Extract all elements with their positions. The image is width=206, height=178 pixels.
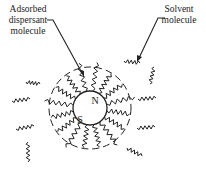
adsorbed-chain bbox=[58, 118, 77, 132]
adsorbed-label-line-1: Adsorbed bbox=[10, 4, 47, 14]
adsorbed-chain bbox=[105, 117, 125, 130]
adsorbed-chain bbox=[66, 123, 81, 148]
solvent-molecule bbox=[138, 96, 156, 100]
solvent-molecule bbox=[26, 142, 30, 162]
solvent-molecule bbox=[149, 67, 155, 84]
adsorbed-chain bbox=[66, 76, 80, 95]
adsorbed-chain bbox=[107, 109, 130, 116]
adsorbed-chain bbox=[100, 122, 117, 145]
solvent-label-line-2: molecule bbox=[162, 15, 197, 25]
solvent-molecule bbox=[127, 148, 142, 156]
adsorbed-leader-line bbox=[47, 20, 82, 73]
adsorbed-chain bbox=[93, 125, 101, 147]
solvent-molecule bbox=[137, 125, 155, 129]
solvent-molecule bbox=[16, 125, 34, 131]
south-pole-label: S bbox=[77, 114, 83, 125]
adsorbed-chain bbox=[51, 111, 73, 119]
adsorbed-label-line-3: molecule bbox=[11, 26, 46, 36]
adsorbed-chain bbox=[91, 63, 98, 92]
dispersion-diagram: Adsorbed dispersant molecule Solvent mol… bbox=[0, 0, 206, 178]
solvent-label-line-1: Solvent bbox=[164, 4, 193, 14]
solvent-arrowhead-icon bbox=[137, 55, 142, 62]
adsorbed-chain bbox=[104, 84, 123, 98]
north-pole-label: N bbox=[91, 95, 98, 106]
solvent-molecule bbox=[12, 97, 30, 102]
solvent-molecule bbox=[26, 81, 40, 86]
adsorbed-chain bbox=[82, 125, 89, 148]
adsorbed-label-line-2: dispersant bbox=[9, 15, 48, 25]
